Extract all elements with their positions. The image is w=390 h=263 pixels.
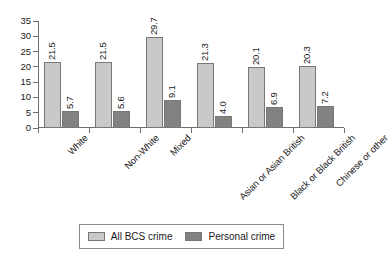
y-axis-tick-label: 20: [5, 62, 31, 72]
plot-area: 21.55.721.55.629.79.121.34.020.16.920.37…: [38, 21, 344, 128]
legend-swatch-icon: [88, 232, 105, 241]
legend-item-label: Personal crime: [208, 232, 275, 242]
bar-all-bcs-crime: [197, 63, 214, 128]
bar-value-label: 5.6: [116, 96, 126, 109]
y-axis-tick-label: 35: [5, 16, 31, 26]
y-axis-tick-label: 30: [5, 31, 31, 41]
bar-value-label: 6.9: [269, 92, 279, 105]
bar-all-bcs-crime: [95, 62, 112, 128]
bar-all-bcs-crime: [146, 37, 163, 128]
y-axis-tick-label: 10: [5, 92, 31, 102]
chart-legend: All BCS crime Personal crime: [79, 224, 284, 249]
legend-item-personal-crime: Personal crime: [185, 232, 275, 242]
bar-value-label: 9.1: [167, 86, 177, 99]
bar-value-label: 5.7: [65, 96, 75, 109]
bar-value-label: 4.0: [218, 101, 228, 114]
bar-personal-crime: [113, 111, 130, 128]
bar-value-label: 29.7: [149, 18, 159, 36]
bar-personal-crime: [266, 107, 283, 128]
x-axis-tick: [191, 128, 192, 133]
bar-all-bcs-crime: [248, 67, 265, 128]
bar-personal-crime: [317, 106, 334, 128]
bar-value-label: 21.5: [98, 43, 108, 61]
bar-personal-crime: [164, 100, 181, 128]
bar-value-label: 20.1: [251, 47, 261, 65]
x-axis-category-label: Mixed: [169, 133, 194, 158]
bar-value-label: 20.3: [302, 46, 312, 64]
legend-item-label: All BCS crime: [111, 232, 173, 242]
legend-swatch-icon: [185, 232, 202, 241]
bar-personal-crime: [62, 111, 79, 128]
bar-all-bcs-crime: [44, 62, 61, 128]
bar-value-label: 7.2: [320, 91, 330, 104]
y-axis-tick-label: 5: [5, 108, 31, 118]
x-axis-tick: [89, 128, 90, 133]
legend-item-all-bcs-crime: All BCS crime: [88, 232, 173, 242]
y-axis-tick-label: 15: [5, 77, 31, 87]
bar-value-label: 21.5: [47, 43, 57, 61]
x-axis-tick: [344, 128, 345, 133]
x-axis-tick: [38, 128, 39, 133]
bar-value-label: 21.3: [200, 43, 210, 61]
x-axis-tick: [242, 128, 243, 133]
x-axis-tick: [140, 128, 141, 133]
bar-personal-crime: [215, 116, 232, 128]
x-axis-tick: [293, 128, 294, 133]
x-axis-category-label: Non-White: [123, 133, 161, 171]
bar-all-bcs-crime: [299, 66, 316, 128]
y-axis-tick-label: 25: [5, 47, 31, 57]
x-axis-category-label: White: [66, 133, 90, 157]
y-axis-tick-label: 0: [5, 123, 31, 133]
